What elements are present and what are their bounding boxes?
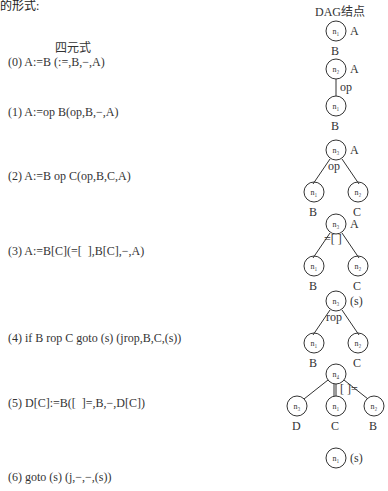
svg-text:n₂: n₂: [371, 402, 378, 411]
svg-text:(s): (s): [350, 451, 363, 465]
dag1-n1-id: n₁: [333, 102, 340, 111]
svg-text:B: B: [331, 119, 339, 133]
svg-text:B: B: [309, 279, 317, 293]
svg-text:n₃: n₃: [333, 146, 340, 155]
svg-text:n₃: n₃: [294, 402, 301, 411]
svg-text:C: C: [353, 356, 361, 370]
svg-text:n₁: n₁: [333, 454, 340, 463]
svg-text:n₁: n₁: [333, 402, 340, 411]
svg-text:B: B: [331, 44, 339, 58]
svg-text:n₂: n₂: [355, 262, 362, 271]
svg-text:A: A: [350, 24, 359, 38]
svg-text:[ ]=: [ ]=: [340, 382, 358, 396]
svg-text:D: D: [292, 419, 301, 433]
svg-text:C: C: [353, 279, 361, 293]
svg-text:n₄: n₄: [333, 370, 340, 379]
svg-text:B: B: [369, 419, 377, 433]
svg-text:op: op: [340, 80, 352, 94]
svg-text:n₃: n₃: [333, 220, 340, 229]
svg-text:A: A: [350, 143, 359, 157]
svg-text:rop: rop: [326, 310, 342, 324]
svg-text:n₁: n₁: [311, 262, 318, 271]
svg-text:n₃: n₃: [333, 297, 340, 306]
dag-diagrams: n₁ n₂ n₁ n₃ n₁ n₂ n₃ n₁ n₂ n₃ n₁ n₂ n₄ n…: [0, 0, 388, 491]
svg-text:B: B: [309, 205, 317, 219]
dag1-n2-id: n₂: [333, 65, 340, 74]
svg-text:n₁: n₁: [311, 339, 318, 348]
svg-text:op: op: [328, 159, 340, 173]
svg-text:A: A: [350, 62, 359, 76]
svg-text:n₂: n₂: [355, 339, 362, 348]
svg-text:=[ ]: =[ ]: [324, 232, 342, 246]
svg-text:n₁: n₁: [311, 188, 318, 197]
svg-text:C: C: [331, 419, 339, 433]
svg-text:n₂: n₂: [355, 188, 362, 197]
svg-text:B: B: [309, 356, 317, 370]
svg-text:(s): (s): [350, 294, 363, 308]
dag0-n1-id: n₁: [333, 27, 340, 36]
svg-text:A: A: [350, 217, 359, 231]
